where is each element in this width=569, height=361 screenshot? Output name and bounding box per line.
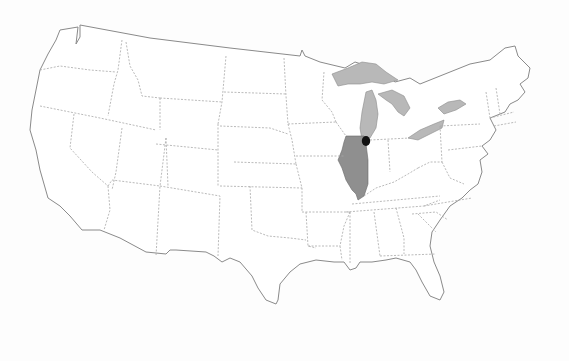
us-map [0, 0, 569, 361]
us-map-svg [0, 0, 569, 361]
us-outline [30, 25, 530, 304]
chicago-marker [362, 136, 370, 146]
lake-superior [332, 62, 398, 86]
